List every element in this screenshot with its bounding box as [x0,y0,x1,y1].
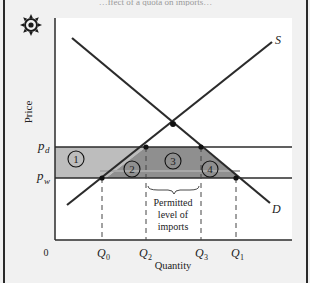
annotation-line-2: level of [158,209,189,220]
svg-text:p: p [37,138,45,153]
q0-label: Q 0 [97,246,110,262]
svg-text:3: 3 [170,155,176,167]
q3-label: Q 3 [195,246,208,262]
point-q2-pd [143,144,148,149]
annotation-line-3: imports [158,221,189,232]
point-q1-pw [233,175,238,180]
annotation-line-1: Permitted [154,197,193,208]
svg-text:3: 3 [204,253,208,262]
svg-text:p: p [36,168,44,183]
point-q3-pd [198,144,203,149]
pw-label: p w [36,168,50,186]
svg-text:Q: Q [195,246,204,260]
x-axis-label: Quantity [155,260,192,271]
origin-label: 0 [44,247,49,258]
svg-text:4: 4 [207,163,213,175]
svg-text:1: 1 [240,253,244,262]
pd-label: p d [37,138,50,155]
svg-text:Q: Q [231,246,240,260]
sun-gear-icon [20,14,42,36]
svg-text:2: 2 [129,163,135,175]
point-q0-pw [99,175,104,180]
y-axis-label: Price [22,101,34,124]
svg-text:Q: Q [97,246,106,260]
q1-label: Q 1 [231,246,244,262]
svg-text:0: 0 [106,253,110,262]
supply-demand-diagram: 1 2 3 4 S D p d p w Price Permitted leve… [0,0,310,283]
svg-text:d: d [45,145,50,155]
equilibrium-point [170,121,176,127]
demand-label: D [271,202,281,216]
q2-label: Q 2 [139,246,152,262]
svg-text:2: 2 [148,253,152,262]
shade-band [100,170,240,172]
svg-text:1: 1 [73,153,79,165]
supply-label: S [275,33,281,47]
svg-text:w: w [44,176,50,186]
svg-text:Q: Q [139,246,148,260]
